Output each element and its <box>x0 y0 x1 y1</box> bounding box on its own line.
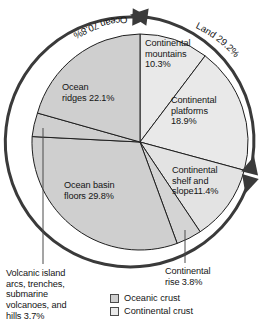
slice-label-continental-shelf-and-slope: Continental shelf and slope11.4% <box>172 165 218 197</box>
legend-label-continental-crust: Continental crust <box>124 306 193 317</box>
legend-item-continental-crust[interactable]: Continental crust <box>110 306 193 317</box>
legend: Oceanic crust Continental crust <box>110 293 193 319</box>
legend-label-oceanic-crust: Oceanic crust <box>124 293 180 304</box>
slice-label-volcanic-island-arcs: Volcanic island arcs, trenches, submarin… <box>6 268 66 322</box>
slice-label-ocean-basin-floors: Ocean basin floors 29.8% <box>64 180 115 201</box>
legend-swatch-oceanic-crust <box>110 294 119 303</box>
slice-label-ocean-ridges: Ocean ridges 22.1% <box>62 82 114 103</box>
slice-label-continental-mountains: Continental mountains 10.3% <box>145 38 190 70</box>
legend-swatch-continental-crust <box>110 307 119 316</box>
slice-label-continental-platforms: Continental platforms 18.9% <box>171 95 216 127</box>
legend-item-oceanic-crust[interactable]: Oceanic crust <box>110 293 193 304</box>
slice-label-continental-rise: Continental rise 3.8% <box>165 266 210 287</box>
